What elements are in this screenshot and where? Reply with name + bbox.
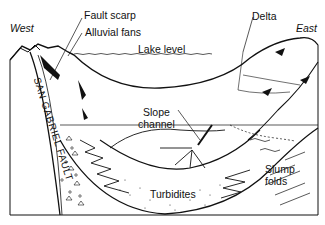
slump-folds-label-line1: Slump	[265, 163, 295, 175]
interfinger-east	[221, 170, 250, 198]
alluvial-fans-label: Alluvial fans	[85, 26, 141, 38]
delta-label: Delta	[252, 10, 277, 22]
slope-channel-label-line2: channel	[138, 118, 175, 130]
alluvial-fans-leader	[68, 33, 82, 56]
slope-channel-label: Slope channel	[138, 106, 175, 130]
turbidites-label: Turbidites	[150, 188, 196, 200]
lake-level-label: Lake level	[138, 43, 185, 55]
slump-folds-label: Slump folds	[265, 163, 295, 187]
slope-channel-label-line1: Slope	[138, 106, 175, 118]
fault-scarp-label: Fault scarp	[84, 9, 136, 21]
east-label: East	[296, 22, 317, 34]
delta-leader	[243, 17, 253, 52]
slump-folds-label-line2: folds	[265, 175, 295, 187]
west-label: West	[10, 22, 34, 34]
interfinger-west	[80, 140, 129, 193]
lake-basin-curve	[74, 38, 318, 88]
